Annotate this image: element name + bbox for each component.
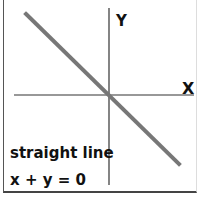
y-axis-label: Y xyxy=(116,14,127,29)
equation-text: x + y = 0 xyxy=(10,173,86,188)
plot-area xyxy=(0,0,198,197)
x-axis-label: X xyxy=(182,81,194,97)
caption-text: straight line xyxy=(10,146,114,161)
line-x-plus-y-equals-0 xyxy=(26,14,179,164)
